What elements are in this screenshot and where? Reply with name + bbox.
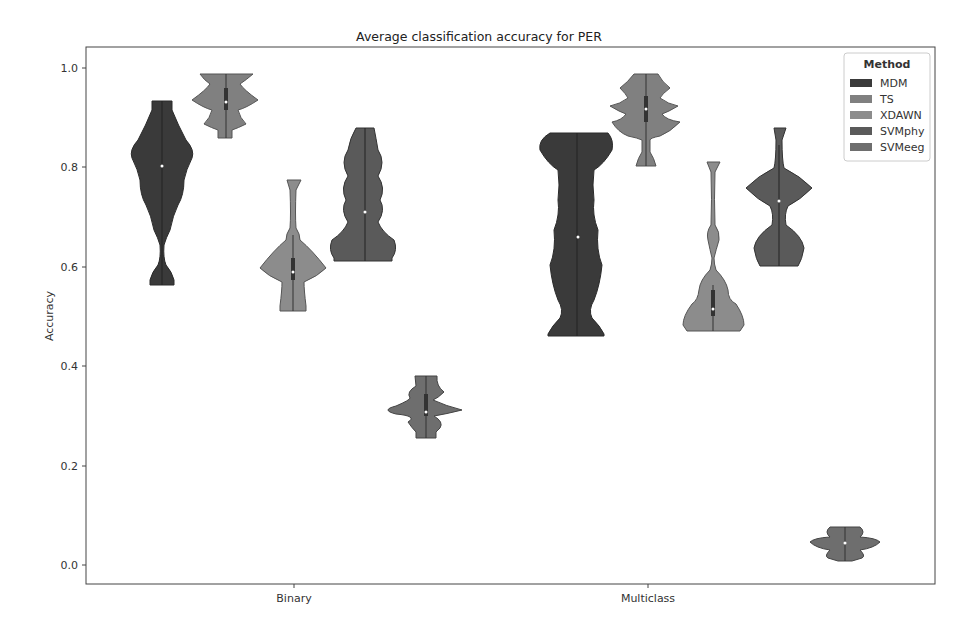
- violin-binary-ts: [192, 74, 258, 138]
- chart-title: Average classification accuracy for PER: [356, 29, 602, 44]
- violin-chart: Average classification accuracy for PER …: [0, 0, 961, 629]
- y-tick-label: 0.8: [61, 161, 79, 174]
- svg-text:XDAWN: XDAWN: [880, 109, 922, 122]
- violin-binary-svmeeg: [388, 376, 462, 438]
- legend-title: Method: [864, 58, 911, 71]
- violin-multiclass-ts: [610, 74, 680, 166]
- svg-text:TS: TS: [879, 93, 894, 106]
- x-tick-label: Binary: [276, 592, 312, 605]
- legend: Method MDM TS XDAWN SVMphy SVMeeg: [844, 53, 930, 161]
- violin-multiclass-mdm: [540, 133, 613, 336]
- y-tick-label: 0.2: [61, 460, 79, 473]
- violin-multiclass-svmphy: [746, 128, 812, 266]
- y-tick-label: 0.4: [61, 360, 79, 373]
- y-tick-label: 1.0: [61, 62, 79, 75]
- violin-binary-xdawn: [260, 180, 326, 311]
- svg-text:SVMphy: SVMphy: [880, 125, 925, 138]
- violin-multiclass-xdawn: [683, 162, 744, 331]
- violin-binary-svmphy: [330, 128, 395, 261]
- y-axis-label: Accuracy: [43, 290, 56, 341]
- y-tick-label: 0.0: [61, 559, 79, 572]
- x-tick-label: Multiclass: [621, 592, 675, 605]
- y-tick-label: 0.6: [61, 261, 79, 274]
- x-axis: Binary Multiclass: [276, 584, 675, 605]
- violin-multiclass-svmeeg: [810, 527, 880, 561]
- svg-text:SVMeeg: SVMeeg: [880, 141, 925, 154]
- y-axis: 0.0 0.2 0.4 0.6 0.8 1.0 Accuracy: [43, 62, 86, 572]
- violin-binary-mdm: [131, 101, 193, 285]
- svg-text:MDM: MDM: [880, 77, 907, 90]
